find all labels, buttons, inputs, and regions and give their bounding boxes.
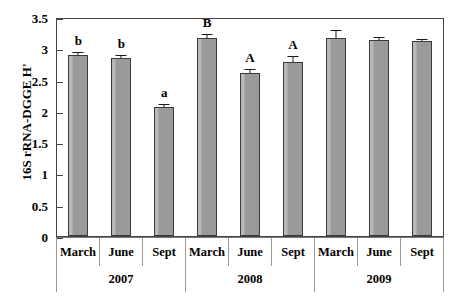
- bar: [240, 73, 260, 236]
- y-axis-tick: [57, 82, 63, 83]
- x-axis-month-label: March: [56, 238, 100, 266]
- error-bar: [121, 56, 122, 58]
- bar: [111, 58, 131, 236]
- x-axis-month-row: MarchJuneSeptMarchJuneSeptMarchJuneSept: [56, 237, 444, 266]
- x-axis-month-label: Sept: [143, 238, 186, 266]
- error-bar-cap: [330, 30, 341, 31]
- bar: [412, 41, 432, 236]
- bar: [369, 40, 389, 236]
- y-axis-tick-label: 1.5: [32, 137, 48, 150]
- y-axis-tick: [57, 19, 63, 20]
- bar-slot: b: [57, 19, 100, 236]
- x-axis-year-label: 2009: [315, 266, 444, 292]
- error-bar-cap: [287, 56, 298, 57]
- bar-slot: A: [271, 19, 314, 236]
- chart-figure: 16S rRNA-DGGE H' 00.511.522.533.5 bbaBAA…: [0, 0, 451, 299]
- significance-label: A: [288, 38, 297, 51]
- y-axis-tick-label: 0.5: [32, 199, 48, 212]
- y-axis-tick: [57, 175, 63, 176]
- x-axis-year-label: 2007: [56, 266, 186, 292]
- error-bar: [78, 53, 79, 56]
- error-bar: [378, 38, 379, 41]
- y-axis-tick: [57, 50, 63, 51]
- x-axis-year-row: 200720082009: [56, 266, 444, 292]
- x-axis-table: MarchJuneSeptMarchJuneSeptMarchJuneSept …: [56, 237, 444, 293]
- significance-label: b: [118, 37, 125, 50]
- error-bar-cap: [245, 69, 256, 70]
- y-axis-tick-label: 3: [42, 43, 49, 56]
- x-axis-month-label: Sept: [401, 238, 444, 266]
- error-bar-cap: [116, 55, 127, 56]
- bar: [283, 62, 303, 236]
- significance-label: B: [203, 16, 212, 29]
- error-bar-cap: [73, 52, 84, 53]
- bar-slot: B: [186, 19, 229, 236]
- x-axis-month-label: Sept: [272, 238, 315, 266]
- bar-slot: b: [100, 19, 143, 236]
- significance-label: a: [161, 86, 168, 99]
- plot-area: bbaBAA: [56, 18, 444, 237]
- x-axis-month-label: March: [186, 238, 229, 266]
- error-bar-cap: [416, 39, 427, 40]
- y-axis-tick-label: 2.5: [32, 74, 48, 87]
- y-axis-tick-label: 1: [42, 168, 49, 181]
- y-axis-tick-label: 2: [42, 105, 49, 118]
- error-bar: [421, 40, 422, 42]
- y-axis-tick: [57, 113, 63, 114]
- y-axis-tick-labels: 00.511.522.533.5: [0, 18, 52, 237]
- y-axis-tick: [57, 207, 63, 208]
- error-bar-cap: [159, 104, 170, 105]
- error-bar: [164, 105, 165, 108]
- y-axis-tick: [57, 144, 63, 145]
- bar: [154, 107, 174, 236]
- error-bar-cap: [373, 37, 384, 38]
- bar-slot: A: [229, 19, 272, 236]
- x-axis-year-label: 2008: [186, 266, 315, 292]
- error-bar: [250, 70, 251, 73]
- y-axis-tick-label: 3.5: [32, 12, 48, 25]
- bar: [197, 38, 217, 236]
- error-bar: [207, 35, 208, 39]
- error-bar: [335, 31, 336, 37]
- y-axis-tick-label: 0: [42, 231, 49, 244]
- error-bar: [292, 57, 293, 62]
- bar-slot: [314, 19, 357, 236]
- bar-slot: a: [143, 19, 186, 236]
- significance-label: b: [75, 34, 82, 47]
- bar: [326, 38, 346, 236]
- x-axis-month-label: March: [315, 238, 358, 266]
- bar-slot: [357, 19, 400, 236]
- x-axis-month-label: June: [100, 238, 143, 266]
- bar-slot: [400, 19, 443, 236]
- error-bar-cap: [202, 34, 213, 35]
- bar-series: bbaBAA: [57, 19, 443, 236]
- significance-label: A: [245, 51, 254, 64]
- x-axis-month-label: June: [229, 238, 272, 266]
- x-axis-month-label: June: [358, 238, 401, 266]
- bar: [68, 55, 88, 236]
